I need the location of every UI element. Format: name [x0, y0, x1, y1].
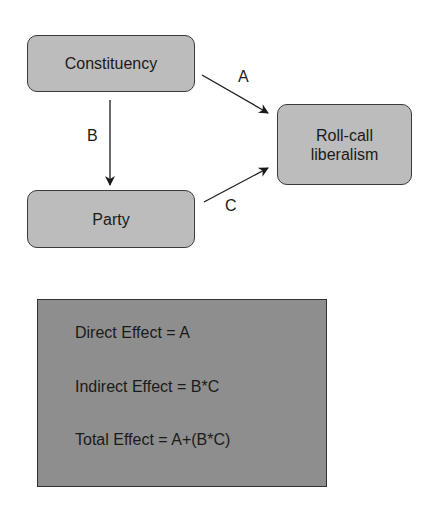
- node-constituency-label: Constituency: [65, 54, 158, 73]
- edge-label-a: A: [238, 68, 249, 86]
- indirect-effect-text: Indirect Effect = B*C: [75, 378, 219, 396]
- arrow-a: [202, 75, 268, 113]
- node-party: Party: [27, 190, 195, 248]
- direct-effect-text: Direct Effect = A: [75, 324, 190, 342]
- node-constituency: Constituency: [27, 35, 195, 92]
- node-rollcall-liberalism: Roll-call liberalism: [277, 104, 412, 185]
- total-effect-text: Total Effect = A+(B*C): [75, 431, 230, 449]
- effects-box: Direct Effect = A Indirect Effect = B*C …: [37, 299, 327, 487]
- node-rollcall-label-line2: liberalism: [311, 145, 379, 164]
- edge-label-b: B: [87, 127, 98, 145]
- node-party-label: Party: [92, 210, 129, 229]
- edge-label-c: C: [225, 197, 237, 215]
- node-rollcall-label-line1: Roll-call: [316, 126, 373, 145]
